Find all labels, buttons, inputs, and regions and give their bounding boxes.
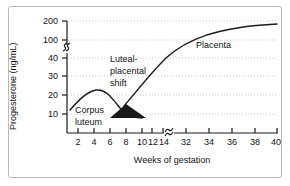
y-tick-label-100: 100 — [43, 35, 58, 45]
x-axis-title: Weeks of gestation — [134, 155, 210, 165]
x-tick-label-36: 36 — [227, 137, 237, 147]
y-tick-label-200: 200 — [43, 16, 58, 26]
luteal-placental-shift-label-line2: placental — [110, 66, 146, 76]
y-tick-labels: 200 100 40 30 20 10 — [43, 16, 58, 119]
y-tick-label-20: 20 — [48, 90, 58, 100]
figure-container: Progesterone (ng/mL) Weeks of gestation … — [0, 0, 290, 186]
y-axis-title: Progesterone (ng/mL) — [8, 42, 18, 130]
x-tick-label-40: 40 — [271, 137, 281, 147]
x-tick-label-2: 2 — [75, 137, 80, 147]
luteal-placental-shift-marker — [110, 104, 146, 118]
luteal-placental-shift-label-line1: Luteal- — [110, 54, 138, 64]
x-tick-label-32: 32 — [181, 137, 191, 147]
x-tick-label-8: 8 — [123, 137, 128, 147]
placenta-curve — [124, 24, 277, 106]
progesterone-gestation-chart: Progesterone (ng/mL) Weeks of gestation … — [0, 0, 290, 186]
x-tick-label-14: 14 — [159, 137, 169, 147]
y-axis — [62, 21, 67, 133]
x-tick-label-6: 6 — [107, 137, 112, 147]
x-tick-label-10: 10 — [137, 137, 147, 147]
x-tick-label-12: 12 — [148, 137, 158, 147]
y-tick-label-30: 30 — [48, 71, 58, 81]
y-tick-label-40: 40 — [48, 53, 58, 63]
corpus-luteum-label-line2: luteum — [75, 117, 102, 127]
x-tick-label-38: 38 — [250, 137, 260, 147]
x-tick-labels: 2 4 6 8 10 12 14 32 34 36 38 40 — [75, 137, 281, 147]
x-tick-label-34: 34 — [204, 137, 214, 147]
corpus-luteum-label-line1: Corpus — [75, 105, 105, 115]
x-tick-label-4: 4 — [91, 137, 96, 147]
gridlines — [68, 21, 278, 114]
y-tick-label-10: 10 — [48, 109, 58, 119]
luteal-placental-shift-label-line3: shift — [110, 78, 127, 88]
placenta-label: Placenta — [196, 40, 231, 50]
x-axis-break-icon — [165, 128, 173, 136]
